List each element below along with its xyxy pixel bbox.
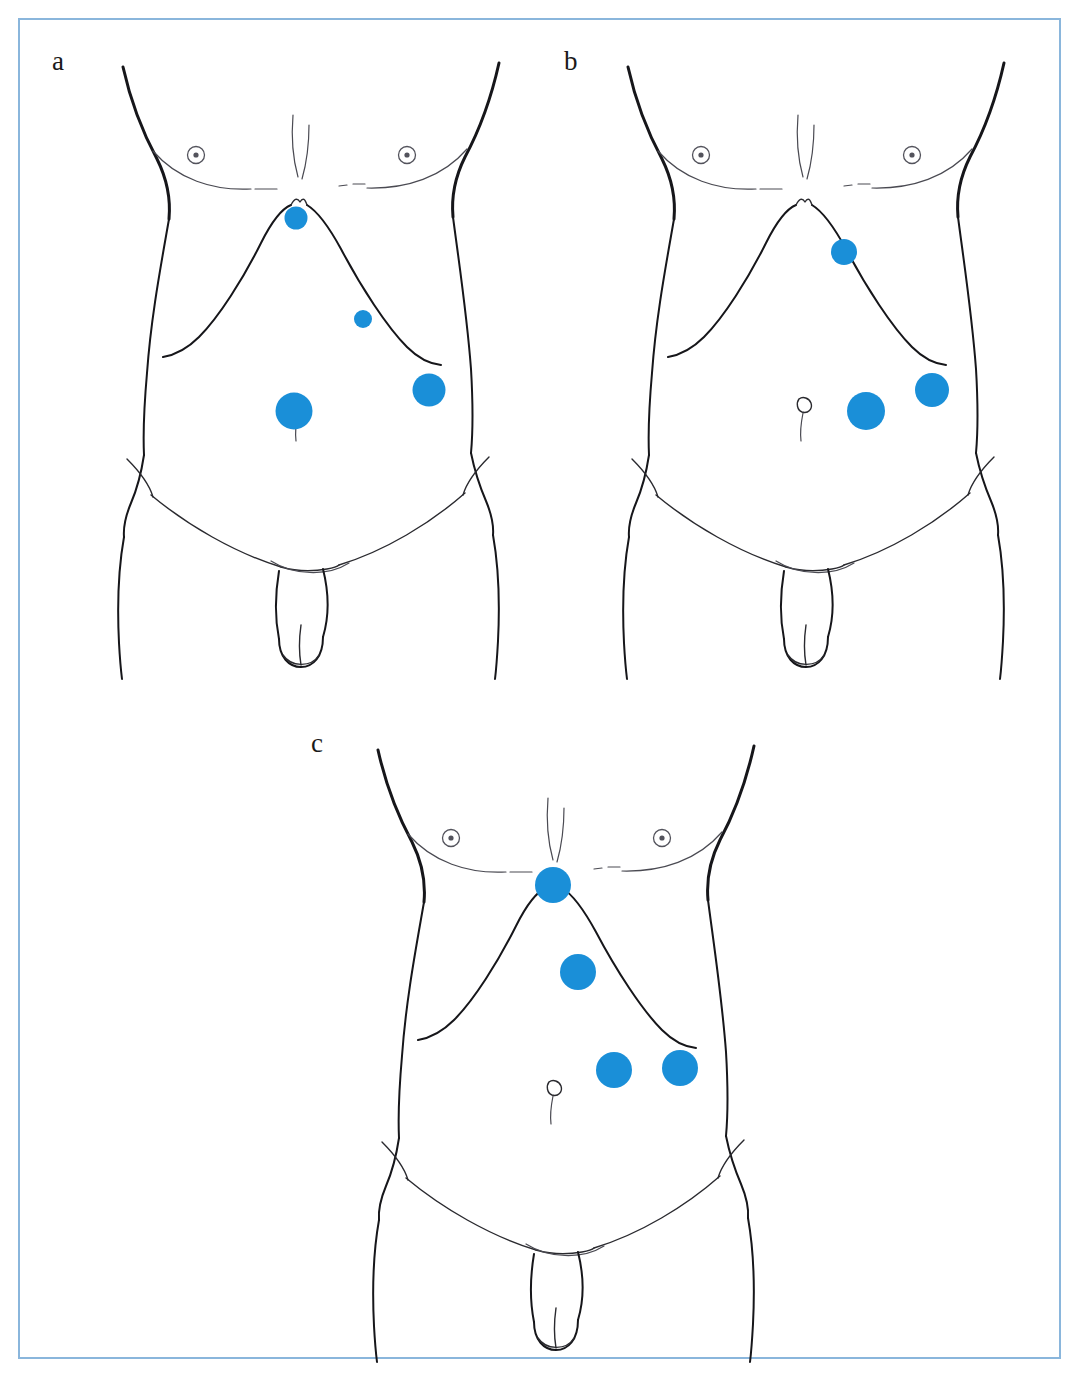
torso-diagram-c — [350, 738, 780, 1363]
left-inguinal-crease — [656, 495, 786, 567]
port-marker-epigastric[interactable] — [354, 310, 372, 328]
left-nipple-center-icon — [698, 152, 703, 157]
midline-dash-right — [339, 184, 365, 186]
port-marker-periumbilical[interactable] — [276, 393, 313, 430]
port-marker-left-flank[interactable] — [662, 1050, 698, 1086]
scrotum-raphe — [300, 625, 302, 665]
left-torso-side — [649, 219, 674, 455]
penis-right-outline — [828, 569, 833, 637]
port-marker-subxiphoid[interactable] — [285, 207, 308, 230]
figure-root: a — [0, 0, 1081, 1381]
right-inguinal-crease — [844, 493, 970, 565]
torso-diagram-b — [600, 55, 1030, 680]
scrotum-raphe — [805, 625, 807, 665]
midline-dash-right — [594, 867, 620, 869]
xiphoid-notch — [291, 199, 307, 205]
left-nipple-center-icon — [448, 835, 453, 840]
left-torso-side — [399, 902, 424, 1138]
costal-margin-right — [812, 205, 946, 365]
port-marker-left-flank[interactable] — [413, 374, 446, 407]
midline-dash-right — [844, 184, 870, 186]
panel-c — [350, 738, 780, 1363]
left-shoulder-outline — [123, 67, 170, 219]
right-thigh-outline — [998, 535, 1004, 679]
panel-label-a: a — [52, 48, 64, 75]
penis-right-outline — [323, 569, 328, 637]
right-pectoral-contour — [872, 149, 972, 188]
umbilicus-crease — [801, 413, 803, 441]
panel-label-b: b — [564, 48, 578, 75]
left-inguinal-crease — [406, 1178, 536, 1250]
right-torso-side — [958, 217, 978, 453]
costal-margin-right — [307, 205, 441, 365]
costal-margin-left — [668, 205, 796, 357]
right-nipple-center-icon — [909, 152, 914, 157]
panel-label-c: c — [311, 730, 323, 757]
panel-a — [95, 55, 525, 680]
right-inguinal-crease — [339, 493, 465, 565]
port-marker-subxiphoid[interactable] — [535, 867, 571, 903]
sternum-line — [292, 115, 298, 177]
penis-left-outline — [781, 571, 784, 639]
right-inguinal-crease — [594, 1176, 720, 1248]
port-marker-upper-epigastric[interactable] — [831, 239, 857, 265]
left-torso-side — [144, 219, 169, 455]
scrotum-raphe — [555, 1308, 557, 1348]
left-inguinal-crease — [151, 495, 281, 567]
penis-left-outline — [531, 1254, 534, 1322]
sternum-line — [797, 115, 803, 177]
sternum-line — [547, 798, 553, 860]
right-thigh-outline — [748, 1218, 754, 1362]
port-marker-left-flank[interactable] — [915, 373, 949, 407]
panel-b — [600, 55, 1030, 680]
penis-left-outline — [276, 571, 279, 639]
port-marker-epigastric[interactable] — [560, 954, 596, 990]
umbilicus-outline — [547, 1081, 561, 1096]
right-thigh-outline — [493, 535, 499, 679]
sternum-line-right — [807, 125, 814, 179]
costal-margin-left — [418, 888, 546, 1040]
right-nipple-center-icon — [404, 152, 409, 157]
penis-right-outline — [578, 1252, 583, 1320]
left-shoulder-outline — [378, 750, 425, 902]
right-torso-side — [708, 900, 728, 1136]
sternum-line-right — [557, 808, 564, 862]
left-thigh-outline — [623, 537, 629, 679]
right-shoulder-outline — [453, 63, 500, 217]
sternum-line-right — [302, 125, 309, 179]
left-thigh-outline — [118, 537, 124, 679]
right-pectoral-contour — [622, 832, 722, 871]
left-thigh-outline — [373, 1220, 379, 1362]
costal-margin-left — [163, 205, 291, 357]
right-torso-side — [453, 217, 473, 453]
xiphoid-notch — [796, 199, 812, 205]
umbilicus-crease — [551, 1096, 553, 1124]
left-nipple-center-icon — [193, 152, 198, 157]
right-shoulder-outline — [958, 63, 1005, 217]
right-shoulder-outline — [708, 746, 755, 900]
port-marker-right-pararectal[interactable] — [596, 1052, 632, 1088]
torso-diagram-a — [95, 55, 525, 680]
port-marker-pararectal[interactable] — [847, 392, 885, 430]
umbilicus-outline — [797, 398, 811, 413]
left-shoulder-outline — [628, 67, 675, 219]
right-pectoral-contour — [367, 149, 467, 188]
right-nipple-center-icon — [659, 835, 664, 840]
